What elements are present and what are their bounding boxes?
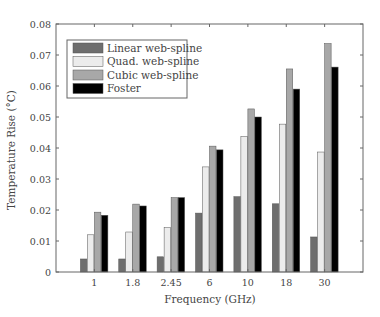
x-tick-label: 18 <box>280 277 292 288</box>
bar-quad-web-spline <box>318 152 325 272</box>
y-axis-title: Temperature Rise (°C) <box>5 90 17 210</box>
bar-foster <box>293 89 300 272</box>
y-tick-label: 0.06 <box>30 81 51 92</box>
y-tick-label: 0.05 <box>30 112 51 123</box>
bar-linear-web-spline <box>234 197 241 272</box>
y-tick-label: 0.07 <box>30 50 51 61</box>
bar-quad-web-spline <box>279 124 286 272</box>
bar-foster <box>332 67 339 272</box>
bar-cubic-web-spline <box>210 146 217 272</box>
y-tick-label: 0 <box>45 267 51 278</box>
bar-quad-web-spline <box>241 137 248 272</box>
legend-label: Quad. web-spline <box>107 55 199 67</box>
bar-cubic-web-spline <box>133 204 140 272</box>
bar-quad-web-spline <box>164 228 171 272</box>
bar-cubic-web-spline <box>325 44 332 272</box>
bar-linear-web-spline <box>196 213 203 272</box>
legend: Linear web-splineQuad. web-splineCubic w… <box>67 40 202 98</box>
bar-linear-web-spline <box>157 257 164 272</box>
bar-quad-web-spline <box>87 235 94 272</box>
bar-linear-web-spline <box>272 204 279 272</box>
bar-cubic-web-spline <box>94 212 101 272</box>
legend-swatch <box>73 57 103 67</box>
bar-foster <box>178 198 185 272</box>
bar-quad-web-spline <box>126 232 133 272</box>
legend-swatch <box>73 84 103 94</box>
y-tick-label: 0.04 <box>30 143 51 154</box>
bar-foster <box>255 117 262 272</box>
legend-swatch <box>73 70 103 80</box>
y-tick-label: 0.02 <box>30 205 51 216</box>
legend-label: Cubic web-spline <box>107 69 198 81</box>
x-tick-label: 1.8 <box>125 277 140 288</box>
legend-swatch <box>73 43 103 53</box>
legend-label: Linear web-spline <box>107 42 202 54</box>
bar-foster <box>217 150 224 272</box>
y-tick-label: 0.01 <box>30 236 51 247</box>
x-tick-label: 6 <box>206 277 212 288</box>
bar-cubic-web-spline <box>171 198 178 272</box>
bar-quad-web-spline <box>203 167 210 272</box>
bar-linear-web-spline <box>80 259 87 272</box>
bar-chart: 00.010.020.030.040.050.060.070.08 11.82.… <box>0 0 380 317</box>
x-tick-label: 2.45 <box>161 277 182 288</box>
bar-cubic-web-spline <box>248 109 255 272</box>
legend-label: Foster <box>107 82 142 94</box>
x-tick-label: 10 <box>242 277 254 288</box>
x-axis-title: Frequency (GHz) <box>164 293 255 305</box>
bar-foster <box>101 215 108 272</box>
bar-foster <box>140 206 147 272</box>
bar-linear-web-spline <box>119 259 126 272</box>
y-tick-label: 0.08 <box>30 19 51 30</box>
x-tick-label: 1 <box>91 277 97 288</box>
bar-cubic-web-spline <box>286 69 293 272</box>
bar-linear-web-spline <box>311 237 318 272</box>
y-tick-label: 0.03 <box>30 174 51 185</box>
x-tick-label: 30 <box>319 277 331 288</box>
